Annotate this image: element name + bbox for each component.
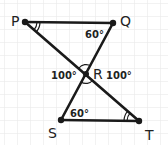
point-r (83, 71, 89, 77)
point-s (58, 117, 64, 123)
label-s: S (48, 125, 57, 141)
label-r: R (93, 66, 103, 82)
angle-label-r-left: 100° (51, 70, 77, 81)
angle-label-s: 60° (70, 108, 89, 119)
geometry-figure: P Q R S T 60° 100° 100° 60° (0, 0, 168, 145)
point-t (136, 118, 142, 124)
label-q: Q (120, 13, 131, 29)
point-p (22, 19, 28, 25)
point-q (110, 20, 116, 26)
label-p: P (11, 13, 19, 29)
segment-pq (25, 22, 113, 23)
diagram-canvas: P Q R S T 60° 100° 100° 60° (0, 0, 168, 145)
label-t: T (144, 127, 154, 143)
angle-label-r-right: 100° (106, 70, 132, 81)
angle-label-q: 60° (85, 29, 104, 40)
